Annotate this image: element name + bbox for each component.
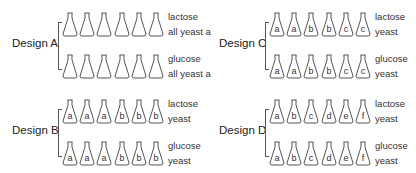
flask-icon: a — [269, 54, 285, 79]
flask-icon — [148, 54, 164, 79]
svg-text:b: b — [136, 153, 141, 163]
svg-text:c: c — [344, 24, 349, 34]
svg-text:f: f — [362, 153, 365, 163]
svg-text:a: a — [274, 153, 279, 163]
design-b: Design Baaabbblactoseyeastaaabbbglucosey… — [0, 87, 208, 173]
design-label: Design D — [219, 124, 266, 136]
flask-icon — [79, 54, 95, 79]
yeast-label: yeast — [375, 155, 398, 166]
flask-icon: b — [303, 54, 319, 79]
flask-icon: e — [338, 99, 354, 124]
svg-text:f: f — [362, 111, 365, 121]
design-label: Design A — [12, 37, 58, 49]
svg-text:a: a — [274, 24, 279, 34]
flask-icon: a — [62, 141, 78, 166]
svg-text:b: b — [326, 24, 331, 34]
flask-icon: b — [114, 99, 130, 124]
svg-text:d: d — [326, 111, 331, 121]
yeast-label: yeast — [168, 113, 191, 124]
flask-icon — [131, 54, 147, 79]
lactose-row: aaabbblactoseyeast — [62, 99, 202, 125]
flask-icon: a — [96, 141, 112, 166]
flask-icon — [114, 54, 130, 79]
svg-text:a: a — [274, 66, 279, 76]
flask-icon: a — [286, 12, 302, 37]
svg-text:c: c — [309, 153, 314, 163]
svg-text:a: a — [292, 24, 297, 34]
medium-label: lactose — [168, 11, 198, 22]
flask-icon: b — [148, 99, 164, 124]
svg-text:b: b — [153, 111, 158, 121]
svg-text:a: a — [292, 66, 297, 76]
flask-icon: a — [286, 54, 302, 79]
svg-text:a: a — [85, 111, 90, 121]
svg-text:b: b — [153, 153, 158, 163]
svg-text:b: b — [136, 111, 141, 121]
yeast-label: yeast — [375, 68, 398, 79]
medium-label: lactose — [375, 11, 405, 22]
flask-icon — [62, 12, 78, 37]
flask-icon — [96, 12, 112, 37]
medium-label: glucose — [375, 140, 408, 151]
lactose-row: lactoseall yeast a — [62, 12, 202, 38]
flask-icon: a — [62, 99, 78, 124]
svg-text:b: b — [119, 111, 124, 121]
design-c: Design Caabbcclactoseyeastaabbccglucosey… — [207, 0, 415, 86]
medium-label: lactose — [375, 98, 405, 109]
svg-text:b: b — [119, 153, 124, 163]
flask-icon: a — [269, 99, 285, 124]
flask-icon: a — [269, 12, 285, 37]
glucose-row: glucoseall yeast a — [62, 54, 202, 80]
svg-text:b: b — [326, 66, 331, 76]
design-a: Design Alactoseall yeast aglucoseall yea… — [0, 0, 208, 86]
svg-text:b: b — [292, 153, 297, 163]
medium-label: glucose — [168, 53, 201, 64]
flask-icon: b — [286, 99, 302, 124]
svg-text:c: c — [344, 66, 349, 76]
glucose-row: aaabbbglucoseyeast — [62, 141, 202, 167]
flask-icon — [131, 12, 147, 37]
flask-icon: e — [338, 141, 354, 166]
svg-text:a: a — [67, 111, 72, 121]
flask-icon — [96, 54, 112, 79]
svg-text:c: c — [309, 111, 314, 121]
flask-icon: b — [303, 12, 319, 37]
lactose-row: abcdeflactoseyeast — [269, 99, 409, 125]
flask-icon: b — [321, 12, 337, 37]
svg-text:a: a — [67, 153, 72, 163]
svg-text:b: b — [309, 24, 314, 34]
svg-text:a: a — [102, 153, 107, 163]
yeast-label: all yeast a — [168, 26, 211, 37]
medium-label: glucose — [375, 53, 408, 64]
flask-icon: a — [269, 141, 285, 166]
flask-icon: b — [131, 141, 147, 166]
yeast-label: yeast — [375, 26, 398, 37]
svg-text:b: b — [292, 111, 297, 121]
flask-icon: c — [355, 12, 371, 37]
svg-text:a: a — [102, 111, 107, 121]
lactose-row: aabbcclactoseyeast — [269, 12, 409, 38]
flask-icon — [114, 12, 130, 37]
flask-icon: c — [303, 99, 319, 124]
yeast-label: yeast — [168, 155, 191, 166]
flask-icon: b — [114, 141, 130, 166]
flask-icon: c — [355, 54, 371, 79]
flask-icon — [62, 54, 78, 79]
svg-text:e: e — [343, 111, 348, 121]
medium-label: glucose — [168, 140, 201, 151]
flask-icon: b — [321, 54, 337, 79]
glucose-row: abcdefglucoseyeast — [269, 141, 409, 167]
flask-icon: d — [321, 141, 337, 166]
medium-label: lactose — [168, 98, 198, 109]
svg-text:b: b — [309, 66, 314, 76]
flask-icon: a — [96, 99, 112, 124]
design-label: Design C — [219, 37, 266, 49]
design-label: Design B — [12, 124, 59, 136]
flask-icon: c — [338, 54, 354, 79]
svg-text:e: e — [343, 153, 348, 163]
flask-icon: b — [286, 141, 302, 166]
flask-icon — [148, 12, 164, 37]
flask-icon: f — [355, 141, 371, 166]
flask-icon: c — [303, 141, 319, 166]
flask-icon: d — [321, 99, 337, 124]
